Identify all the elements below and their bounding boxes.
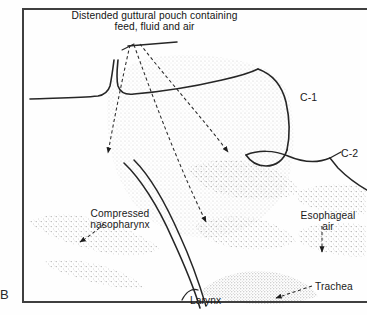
figure-title-line2: feed, fluid and air: [114, 21, 194, 32]
figure-root: Distended guttural pouch containingfeed,…: [0, 0, 367, 315]
label-compressed-nasopharynx: Compressednasopharynx: [70, 208, 170, 230]
label-nasopharynx-line1: Compressed: [91, 208, 150, 219]
figure-frame: [0, 0, 367, 315]
label-esophageal-air: Esophagealair: [296, 210, 360, 232]
label-esophageal-line1: Esophageal: [301, 210, 356, 221]
panel-letter: B: [0, 288, 9, 302]
figure-title-line1: Distended guttural pouch containing: [71, 10, 237, 21]
label-larynx: Larynx: [190, 295, 221, 306]
label-trachea: Trachea: [315, 281, 353, 292]
label-c2: C-2: [341, 148, 358, 159]
label-nasopharynx-line2: nasopharynx: [90, 219, 149, 230]
label-esophageal-line2: air: [322, 221, 334, 232]
label-c1: C-1: [300, 92, 317, 103]
figure-title: Distended guttural pouch containingfeed,…: [57, 10, 252, 32]
